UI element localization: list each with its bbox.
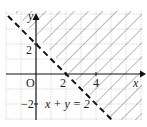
y-tick-neg2: −2 bbox=[21, 97, 34, 111]
inequality-graph: y x O 2 4 2 −2 x + y = 2 bbox=[0, 0, 147, 127]
x-axis-label: x bbox=[132, 76, 139, 90]
x-axis-arrow-icon bbox=[140, 71, 146, 78]
x-tick-4: 4 bbox=[93, 76, 99, 90]
origin-label: O bbox=[26, 76, 35, 90]
y-axis-label: y bbox=[27, 9, 34, 23]
x-tick-2: 2 bbox=[60, 76, 66, 90]
y-tick-2: 2 bbox=[26, 43, 32, 57]
equation-annotation: x + y = 2 bbox=[44, 97, 90, 111]
